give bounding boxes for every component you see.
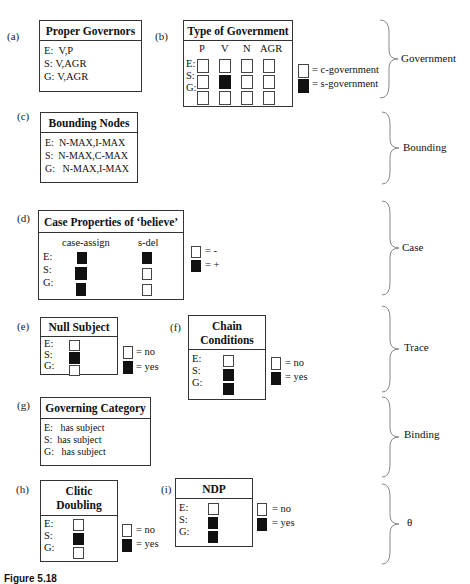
cell-filled — [142, 252, 152, 264]
legend-filled-swatch — [257, 518, 267, 531]
legend-empty-text: = - — [205, 245, 217, 256]
cell-filled — [208, 531, 218, 543]
panel-bounding-nodes: Bounding Nodes E: N-MAX,I-MAX S: N-MAX,C… — [40, 112, 138, 183]
legend-filled-swatch — [298, 79, 309, 93]
cell-empty — [208, 503, 219, 515]
legend-filled-text: = yes — [136, 361, 159, 372]
legend-empty-text: = no — [136, 524, 155, 535]
panel-title: Null Subject — [41, 318, 117, 337]
cell-empty — [197, 91, 209, 105]
panel-h-label: (h) — [16, 483, 29, 495]
brace-theta-icon — [380, 482, 406, 566]
panel-title: Governing Category — [41, 398, 150, 419]
panel-title: Proper Governors — [40, 21, 141, 41]
row-key: S: — [45, 150, 53, 161]
row-key: E: — [44, 45, 53, 56]
row-value: has subject — [62, 446, 106, 457]
row-label: S: — [43, 264, 52, 275]
cell-filled — [75, 267, 87, 280]
cell-empty — [69, 365, 80, 376]
legend-empty-swatch — [191, 246, 201, 258]
panel-case-properties: Case Properties of ‘believe’ case-assign… — [38, 210, 184, 300]
brace-label-bounding: Bounding — [403, 141, 446, 153]
panel-title: Clitic Doubling — [41, 481, 117, 516]
panel-title: Bounding Nodes — [41, 113, 137, 133]
legend-empty-swatch — [123, 346, 133, 359]
row-key: S: — [44, 434, 52, 445]
cell-empty — [223, 355, 234, 367]
panel-f-label: (f) — [170, 321, 181, 333]
panel-null-subject: Null Subject E: S: G: — [40, 317, 118, 375]
row-label: S: — [44, 530, 53, 541]
row-value: N-MAX,I-MAX — [59, 137, 125, 148]
cell-empty — [69, 340, 80, 351]
panel-clitic-doubling: Clitic Doubling E: S: G: — [40, 480, 118, 562]
legend-empty-text: = no — [136, 346, 155, 357]
legend-empty-swatch — [271, 357, 281, 370]
cell-empty — [219, 59, 231, 73]
brace-label-case: Case — [402, 241, 423, 253]
legend-filled-swatch — [271, 372, 281, 385]
cell-empty — [241, 59, 253, 73]
panel-type-of-government: Type of Government P V N AGR E: S: G: — [183, 20, 293, 107]
brace-label-theta: θ — [407, 516, 412, 528]
row-label: S: — [179, 514, 188, 525]
panel-g-label: (g) — [17, 399, 30, 411]
row-key: E: — [45, 137, 54, 148]
cell-empty — [142, 268, 152, 280]
row-value: N-MAX,C-MAX — [58, 150, 128, 161]
panel-i-label: (i) — [161, 483, 171, 495]
figure-caption: Figure 5.18 — [4, 573, 57, 584]
legend-empty-swatch — [257, 503, 267, 516]
row-value: V,AGR — [57, 71, 88, 82]
legend-filled-text: = s-government — [312, 78, 378, 89]
row-value: N-MAX,I-MAX — [63, 163, 129, 174]
panel-b-label: (b) — [155, 30, 168, 42]
panel-d-label: (d) — [17, 212, 30, 224]
cell-filled — [208, 517, 218, 529]
panel-governing-category: Governing Category E: has subject S: has… — [40, 397, 151, 466]
cell-filled — [77, 252, 87, 264]
brace-label-government: Government — [401, 52, 456, 64]
legend-filled-swatch — [191, 260, 201, 272]
cell-filled — [219, 75, 231, 89]
column-header: case-assign — [62, 237, 110, 248]
cell-empty — [197, 59, 209, 73]
column-header: N — [243, 43, 251, 54]
cell-empty — [219, 91, 231, 105]
row-label: G: — [44, 360, 55, 371]
legend-filled-swatch — [122, 539, 132, 552]
legend-filled-text: = yes — [285, 371, 308, 382]
cell-filled — [223, 369, 234, 381]
title-line: Clitic — [66, 484, 93, 498]
panel-c-label: (c) — [17, 110, 29, 122]
column-header: V — [221, 43, 229, 54]
legend-empty-text: = c-government — [312, 64, 379, 75]
cell-filled — [223, 383, 234, 395]
panel-title: Type of Government — [184, 21, 292, 41]
panel-proper-governors: Proper Governors E: V,P S: V,AGR G: V,AG… — [39, 20, 142, 92]
cell-empty — [241, 75, 253, 89]
row-label: E: — [186, 58, 195, 69]
legend-empty-text: = no — [272, 503, 291, 514]
row-label: E: — [44, 518, 53, 529]
row-key: G: — [44, 71, 55, 82]
panel-ndp: NDP E: S: G: — [175, 478, 253, 547]
cell-empty — [197, 75, 209, 89]
row-label: S: — [44, 349, 53, 360]
cell-empty — [73, 519, 84, 531]
row-label: S: — [186, 70, 195, 81]
legend-filled-text: = yes — [272, 517, 295, 528]
legend-filled-swatch — [123, 361, 133, 374]
row-label: E: — [43, 251, 52, 262]
legend-empty-swatch — [122, 524, 132, 537]
row-label: E: — [179, 502, 188, 513]
row-label: E: — [44, 338, 53, 349]
title-line: Doubling — [56, 498, 101, 512]
panel-chain-conditions: Chain Conditions E: S: G: — [188, 315, 266, 400]
row-key: E: — [44, 422, 53, 433]
row-label: G: — [44, 542, 55, 553]
column-header: AGR — [260, 43, 282, 54]
row-key: S: — [44, 58, 53, 69]
row-value: V,AGR — [55, 58, 86, 69]
